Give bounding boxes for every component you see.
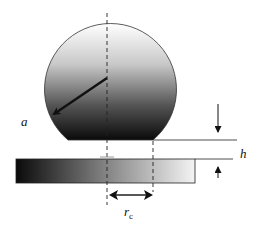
label-rc-sub: c	[129, 211, 133, 221]
diagram-canvas: a h rc	[0, 0, 261, 234]
sphere	[45, 24, 177, 140]
slab	[16, 159, 195, 183]
label-h: h	[240, 146, 247, 161]
label-rc: rc	[124, 204, 133, 221]
label-a: a	[21, 114, 28, 129]
